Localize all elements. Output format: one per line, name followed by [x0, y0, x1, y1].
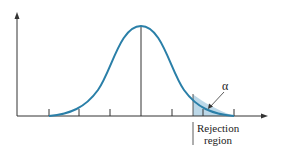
normal-curve-diagram: [0, 0, 282, 154]
y-axis-arrow-icon: [15, 12, 20, 19]
alpha-pointer: [210, 92, 224, 107]
alpha-label: α: [222, 80, 228, 92]
rejection-label-line1: Rejection: [197, 122, 239, 134]
rejection-label-line2: region: [204, 134, 232, 146]
x-axis-arrow-icon: [261, 114, 268, 119]
